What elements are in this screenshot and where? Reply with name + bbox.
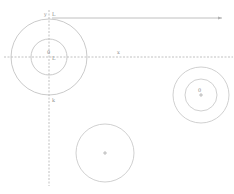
right-center-label: 0 [198, 87, 201, 93]
right-center-marker [199, 93, 203, 97]
bottom-point-label: k [52, 97, 56, 103]
origin-label: 0 [47, 49, 50, 55]
arrowhead-icon [218, 17, 222, 20]
y-axis-label: y [43, 11, 47, 18]
geometry-diagram: y L 0 L x k 0 [0, 0, 234, 194]
bottom-center-marker [103, 151, 107, 155]
top-point-label: L [52, 11, 56, 17]
x-axis-label: x [117, 49, 120, 55]
origin-side-label: L [52, 55, 56, 61]
